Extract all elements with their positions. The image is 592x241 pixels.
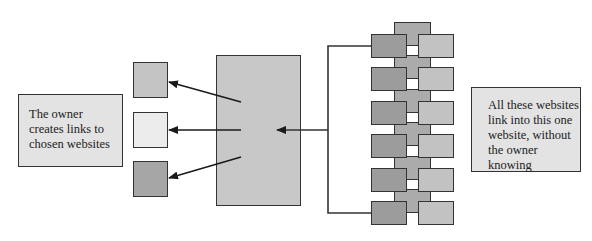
linking-note-line-1: All these websites bbox=[488, 98, 580, 113]
linking-note-line-4: the owner knowing bbox=[488, 143, 580, 173]
linking-site-left bbox=[371, 67, 407, 91]
arrow-to-target-3 bbox=[169, 157, 241, 178]
outgoing-arrows bbox=[169, 82, 241, 178]
linking-sites-note-box: All these websites link into this one we… bbox=[471, 87, 581, 172]
linking-site-right bbox=[418, 67, 454, 91]
linking-note-line-3: website, without bbox=[488, 128, 580, 143]
arrow-to-target-1 bbox=[169, 82, 241, 102]
linking-site-left bbox=[371, 201, 407, 225]
linking-site-right bbox=[418, 201, 454, 225]
linking-site-left bbox=[371, 134, 407, 158]
linking-site-right bbox=[418, 134, 454, 158]
linking-site-left bbox=[371, 101, 407, 125]
linking-site-right bbox=[418, 34, 454, 58]
incoming-bracket bbox=[277, 46, 372, 213]
linking-site-left bbox=[371, 168, 407, 192]
linking-note-line-2: link into this one bbox=[488, 113, 580, 128]
linking-site-right bbox=[418, 168, 454, 192]
linking-site-left bbox=[371, 34, 407, 58]
linking-site-right bbox=[418, 101, 454, 125]
